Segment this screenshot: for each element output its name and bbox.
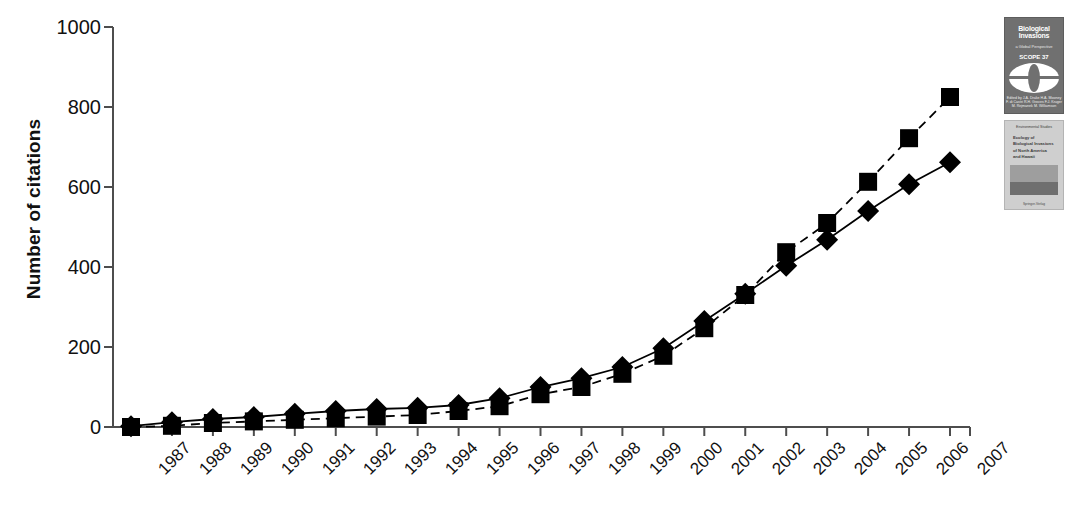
- cover-invasive-footer: Springer-Verlag: [1005, 203, 1063, 206]
- plot-svg: [113, 27, 970, 427]
- x-tick-label: 1996: [524, 439, 563, 478]
- marker-square: [245, 412, 263, 430]
- marker-square: [695, 319, 713, 337]
- marker-square: [450, 402, 468, 420]
- x-tick-label: 1998: [606, 439, 645, 478]
- x-tick-label: 2000: [687, 439, 726, 478]
- x-tick-label: 1988: [196, 439, 235, 478]
- x-tick-label: 1997: [565, 439, 604, 478]
- book-cover-scope37-image: Biological Invasions a Global Perspectiv…: [1004, 17, 1064, 114]
- marker-square: [859, 173, 877, 191]
- x-tick-label: 1995: [483, 439, 522, 478]
- marker-square: [491, 397, 509, 415]
- marker-square: [654, 347, 672, 365]
- marker-diamond: [816, 229, 838, 251]
- marker-diamond: [939, 151, 961, 173]
- x-tick-label: 2007: [974, 439, 1013, 478]
- marker-square: [368, 408, 386, 426]
- marker-square: [327, 409, 345, 427]
- marker-square: [818, 214, 836, 232]
- x-tick-label: 1987: [155, 439, 194, 478]
- cover-scope-title: Biological Invasions: [1005, 25, 1063, 40]
- x-tick-label: 2003: [810, 439, 849, 478]
- marker-square: [286, 411, 304, 429]
- x-tick-label: 2005: [892, 439, 931, 478]
- x-tick-label: 2002: [769, 439, 808, 478]
- x-tick-label: 1991: [319, 439, 358, 478]
- marker-square: [941, 88, 959, 106]
- marker-square: [900, 129, 918, 147]
- x-tick-label: 1989: [237, 439, 276, 478]
- x-tick-label: 2004: [851, 439, 890, 478]
- x-tick-label: 1999: [646, 439, 685, 478]
- x-tick-label: 1990: [278, 439, 317, 478]
- cover-scope-subtitle: a Global Perspective: [1005, 45, 1063, 49]
- book-cover-invasive-image: Environmental Studies Ecology of Biologi…: [1004, 120, 1064, 210]
- cover-invasive-lines: Ecology of Biological Invasions of North…: [1013, 135, 1055, 160]
- x-tick-label: 1993: [401, 439, 440, 478]
- x-tick-label: 1994: [442, 439, 481, 478]
- marker-diamond: [898, 173, 920, 195]
- x-tick-label: 2006: [933, 439, 972, 478]
- marker-square: [122, 418, 140, 436]
- marker-square: [163, 417, 181, 435]
- marker-square: [409, 406, 427, 424]
- marker-square: [777, 243, 795, 261]
- cover-invasive-photo-graphic: [1010, 165, 1058, 195]
- x-tick-label: 2001: [728, 439, 767, 478]
- citations-chart-figure: Number of citations 02004006008001000 19…: [0, 0, 1077, 506]
- marker-square: [532, 385, 550, 403]
- marker-square: [736, 286, 754, 304]
- cover-scope-authors: Edited by J.A. Drake H.A. Mooney F. di C…: [1005, 97, 1063, 108]
- plot-area: [113, 27, 970, 427]
- marker-square: [613, 365, 631, 383]
- x-tick-label: 1992: [360, 439, 399, 478]
- cover-scope-bar-graphic: [1009, 76, 1059, 79]
- marker-square: [572, 378, 590, 396]
- marker-diamond: [857, 200, 879, 222]
- marker-square: [204, 414, 222, 432]
- cover-invasive-header: Environmental Studies: [1005, 126, 1063, 130]
- cover-scope-series: SCOPE 37: [1005, 54, 1063, 60]
